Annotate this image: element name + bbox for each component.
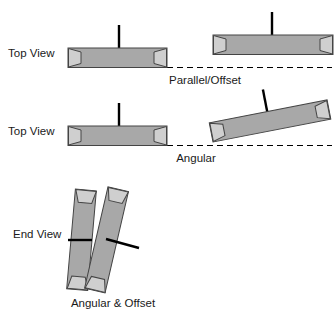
shaft-cap-right-offset (320, 36, 333, 55)
caption-angular: Angular (176, 152, 216, 164)
shaft-body-right-parallel (213, 35, 333, 55)
caption-parallel-offset: Parallel/Offset (169, 74, 242, 86)
section-angular-and-offset: End View Angular & Offset (13, 187, 156, 309)
end-view-label: End View (13, 228, 62, 240)
shaft-stem-right-angular (263, 90, 267, 113)
diagram-canvas: Top View Parallel/Offset Top View (0, 0, 335, 317)
section-angular: Top View Angular (8, 78, 332, 164)
shaft-right-angular (205, 78, 331, 142)
shaft-right-parallel (213, 12, 333, 55)
shaft-body-left-angular (68, 126, 167, 146)
shaft-left-parallel (68, 25, 167, 68)
shaft-cap-right-parallel (154, 49, 167, 68)
shaft-cap-left-parallel (69, 49, 82, 68)
top-view-label-angular: Top View (8, 125, 55, 137)
shaft-body-left-parallel (68, 48, 167, 68)
top-view-label-parallel: Top View (8, 47, 55, 59)
shaft-body-right-angular (209, 100, 331, 142)
shaft-cap-left-offset (214, 36, 227, 55)
shaft-left-angular (68, 103, 167, 146)
caption-angular-and-offset: Angular & Offset (71, 297, 156, 309)
section-parallel-offset: Top View Parallel/Offset (8, 12, 333, 86)
shaft-cap-left-angular (69, 127, 82, 146)
shaft-cap-right-angular (154, 127, 167, 146)
shaft-misalignment-diagram: Top View Parallel/Offset Top View (0, 0, 335, 317)
